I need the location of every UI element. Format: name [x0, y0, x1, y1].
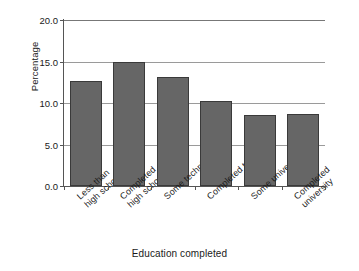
plot-area: 0.05.010.015.020.0Less than high schoolC… [64, 20, 325, 186]
bar [157, 77, 189, 186]
gridline [64, 20, 325, 21]
y-tick-label: 20.0 [40, 15, 59, 26]
x-tick-mark [151, 186, 152, 190]
x-tick-mark [325, 186, 326, 190]
y-axis-title: Percentage [29, 7, 40, 127]
x-tick-mark [108, 186, 109, 190]
x-tick-mark [238, 186, 239, 190]
y-tick-label: 10.0 [40, 98, 59, 109]
bar-chart: Percentage 0.05.010.015.020.0Less than h… [0, 0, 359, 271]
y-tick-mark [60, 62, 64, 63]
y-tick-label: 15.0 [40, 56, 59, 67]
x-tick-mark [282, 186, 283, 190]
gridline [64, 145, 325, 146]
gridline [64, 103, 325, 104]
y-tick-label: 0.0 [45, 181, 58, 192]
gridline [64, 62, 325, 63]
bar [70, 81, 102, 186]
y-tick-mark [60, 145, 64, 146]
y-tick-mark [60, 20, 64, 21]
x-axis-title: Education completed [0, 248, 359, 259]
x-tick-mark [195, 186, 196, 190]
y-tick-label: 5.0 [45, 139, 58, 150]
y-tick-mark [60, 103, 64, 104]
bar [113, 62, 145, 187]
x-tick-mark [64, 186, 65, 190]
